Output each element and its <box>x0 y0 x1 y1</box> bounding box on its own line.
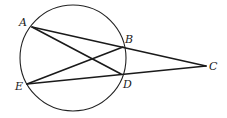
segment-ac <box>32 27 206 66</box>
label-e: E <box>14 80 23 93</box>
segment-ad <box>32 27 121 74</box>
label-b: B <box>124 33 133 46</box>
circle <box>20 5 126 111</box>
segment-ec <box>27 66 206 84</box>
label-c: C <box>209 60 218 73</box>
label-d: D <box>122 78 132 91</box>
geometry-diagram: A B C D E <box>0 0 227 118</box>
label-a: A <box>18 16 27 29</box>
